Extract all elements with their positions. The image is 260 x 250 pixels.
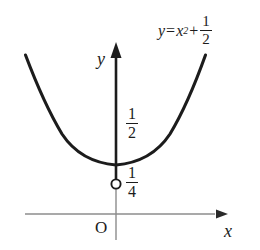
x-axis [25, 210, 228, 219]
y-intercept-fraction-label: 1 2 [126, 106, 138, 141]
fraction-denominator: 4 [126, 183, 138, 200]
equation-label: y = x 2 + 1 2 [158, 14, 212, 47]
equation-constant-fraction: 1 2 [200, 14, 212, 47]
y-axis-label: y [97, 50, 105, 68]
fraction-numerator: 1 [126, 165, 138, 183]
equation-variable: x [176, 23, 183, 39]
equation-plus-sign: + [188, 23, 199, 39]
origin-label: O [95, 219, 107, 236]
fraction-numerator: 1 [200, 14, 212, 31]
fraction-denominator: 2 [126, 124, 138, 141]
fraction-denominator: 2 [200, 31, 212, 47]
open-point-marker [111, 179, 120, 188]
x-axis-label: x [224, 222, 232, 240]
fraction-numerator: 1 [126, 106, 138, 124]
y-axis-arrowhead [111, 42, 122, 58]
equation-left-side: y [158, 23, 165, 39]
open-point-fraction-label: 1 4 [126, 165, 138, 200]
y-axis [111, 42, 122, 184]
equation-equals-sign: = [165, 23, 176, 39]
parabola-figure: y x O 1 2 1 4 y = x 2 + 1 2 [0, 0, 260, 250]
x-axis-arrowhead [216, 210, 228, 219]
